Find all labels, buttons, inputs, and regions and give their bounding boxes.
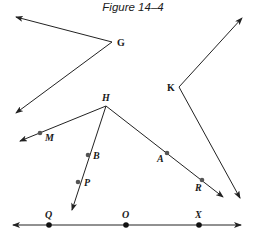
label-r: R xyxy=(194,182,202,193)
ray-hm xyxy=(20,106,106,141)
label-k: K xyxy=(167,82,175,93)
point-p xyxy=(76,180,81,185)
ray-g-lower xyxy=(16,42,112,113)
point-q xyxy=(46,222,52,228)
label-p: P xyxy=(84,177,91,188)
point-o xyxy=(123,222,129,228)
angle-h: H M B P A R xyxy=(20,92,223,210)
label-o: O xyxy=(122,209,129,220)
label-b: B xyxy=(92,150,100,161)
point-m xyxy=(38,131,43,136)
label-h: H xyxy=(101,92,111,103)
ray-k-lower xyxy=(179,87,240,198)
point-x xyxy=(196,222,202,228)
ray-k-upper xyxy=(179,18,242,87)
line-qox: Q O X xyxy=(13,209,241,228)
ray-g-upper xyxy=(16,17,112,42)
label-x: X xyxy=(194,209,202,220)
angle-k: K xyxy=(167,18,242,198)
geometry-diagram: G K H M B P A R Q O X xyxy=(0,0,256,244)
point-b xyxy=(86,153,91,158)
ray-hr xyxy=(106,106,223,197)
label-q: Q xyxy=(45,209,52,220)
label-m: M xyxy=(44,132,55,143)
label-g: G xyxy=(117,37,125,48)
label-a: A xyxy=(156,153,164,164)
point-a xyxy=(165,151,170,156)
ray-hp xyxy=(72,106,106,210)
